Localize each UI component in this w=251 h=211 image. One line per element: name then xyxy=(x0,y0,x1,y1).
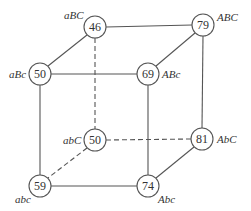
value-abC: 50 xyxy=(89,133,101,147)
label-abC: abC xyxy=(63,134,82,146)
label-aBC: aBC xyxy=(64,9,84,21)
edge-aBc-aBC xyxy=(48,35,87,66)
edge-aBC-ABC xyxy=(106,25,192,27)
value-ABC: 79 xyxy=(197,18,209,32)
label-abc: abc xyxy=(15,193,31,205)
value-AbC: 81 xyxy=(196,132,208,146)
edge-Abc-AbC xyxy=(156,147,194,178)
edge-abC-abc xyxy=(48,148,87,178)
edge-ABC-AbC xyxy=(202,36,203,128)
value-aBc: 50 xyxy=(34,67,46,81)
label-ABc: ABc xyxy=(161,68,180,80)
label-aBc: aBc xyxy=(9,68,26,80)
label-AbC: AbC xyxy=(216,133,237,145)
value-aBC: 46 xyxy=(89,20,101,34)
label-ABC: ABC xyxy=(216,11,238,23)
value-abc: 59 xyxy=(34,179,46,193)
value-ABc: 69 xyxy=(142,67,154,81)
value-Abc: 74 xyxy=(142,179,154,193)
label-Abc: Abc xyxy=(157,193,175,205)
cube-diagram: 46 79 50 69 50 81 59 74 aBC ABC aBc ABc … xyxy=(0,0,251,211)
edge-abC-AbC xyxy=(106,139,191,140)
edge-ABc-ABC xyxy=(156,33,195,66)
